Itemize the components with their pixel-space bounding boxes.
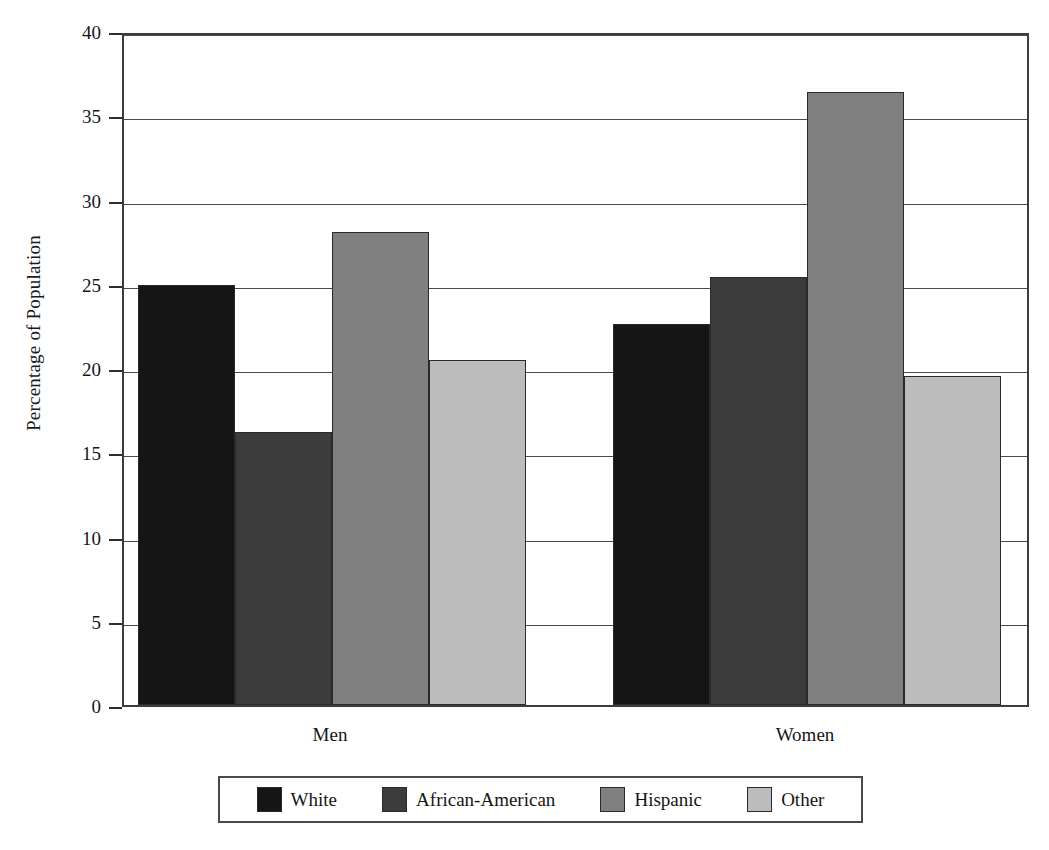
legend-swatch-african-american-icon	[382, 787, 407, 812]
x-axis-label-women: Women	[705, 724, 905, 746]
legend-swatch-hispanic-icon	[600, 787, 625, 812]
legend-item-hispanic: Hispanic	[600, 787, 702, 812]
y-axis-tick	[109, 707, 122, 709]
legend-item-other: Other	[747, 787, 824, 812]
bar-chart: Percentage of Population 051015202530354…	[0, 0, 1049, 850]
legend: White African-American Hispanic Other	[218, 776, 863, 823]
bar-women-african-american	[710, 277, 807, 705]
y-axis-tick	[109, 623, 122, 625]
y-axis-tick	[109, 202, 122, 204]
bar-women-hispanic	[807, 92, 904, 705]
y-axis-tick-label: 15	[43, 444, 101, 463]
y-axis-tick-label: 20	[43, 360, 101, 379]
legend-swatch-other-icon	[747, 787, 772, 812]
bar-men-hispanic	[332, 232, 429, 705]
legend-label-other: Other	[781, 790, 824, 809]
y-axis-tick	[109, 370, 122, 372]
y-axis-tick-label: 10	[43, 529, 101, 548]
x-axis-label-men: Men	[230, 724, 430, 746]
legend-item-african-american: African-American	[382, 787, 555, 812]
y-axis-tick-label: 5	[43, 613, 101, 632]
legend-label-hispanic: Hispanic	[634, 790, 702, 809]
legend-label-white: White	[291, 790, 337, 809]
y-axis-tick-label: 25	[43, 276, 101, 295]
bar-men-white	[138, 285, 235, 705]
y-axis-tick	[109, 117, 122, 119]
legend-swatch-white-icon	[257, 787, 282, 812]
y-axis-tick-label: 40	[43, 23, 101, 42]
y-axis-tick	[109, 454, 122, 456]
gridline	[124, 35, 1027, 36]
bar-men-other	[429, 360, 526, 705]
y-axis-tick-label: 0	[43, 697, 101, 716]
bar-women-other	[904, 376, 1001, 705]
y-axis-title: Percentage of Population	[23, 203, 45, 463]
y-axis-tick-label: 35	[43, 107, 101, 126]
y-axis-tick-label: 30	[43, 192, 101, 211]
bar-women-white	[613, 324, 710, 705]
legend-label-african-american: African-American	[416, 790, 555, 809]
y-axis-tick	[109, 539, 122, 541]
legend-item-white: White	[257, 787, 337, 812]
bar-men-african-american	[235, 432, 332, 705]
y-axis-tick	[109, 33, 122, 35]
plot-area	[122, 33, 1029, 707]
y-axis-tick	[109, 286, 122, 288]
